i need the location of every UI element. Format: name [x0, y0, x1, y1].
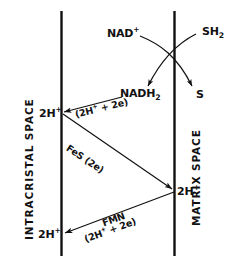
proton-upper-left-label: 2H+ — [39, 108, 62, 119]
sh2-to-nadh2-arrow — [148, 34, 196, 86]
nad-plus-label: NAD+ — [107, 28, 139, 39]
proton-lower-left-label: 2H+ — [38, 229, 61, 240]
sh2-subscript: 2 — [219, 31, 224, 40]
nadh2-subscript: 2 — [155, 93, 160, 102]
sh2-label: SH2 — [202, 26, 224, 37]
matrix-space-label: MATRIX SPACE — [191, 129, 202, 226]
s-product-label: S — [196, 89, 204, 100]
electron-transport-diagram: INTRACRISTAL SPACE MATRIX SPACE NAD+ SH2… — [0, 0, 240, 266]
proton-mid-right-charge: + — [193, 183, 199, 192]
proton-upper-left-charge: + — [55, 105, 61, 114]
nad-to-s-arrow — [140, 36, 192, 86]
nad-plus-charge: + — [133, 25, 139, 34]
proton-mid-right-label: 2H+ — [177, 186, 200, 197]
intracristal-space-label: INTRACRISTAL SPACE — [24, 98, 35, 240]
proton-lower-left-charge: + — [54, 226, 60, 235]
